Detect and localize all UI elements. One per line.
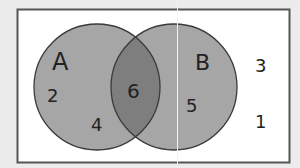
a-only-element: 2 (47, 85, 58, 106)
intersection-element: 6 (127, 79, 140, 103)
outside-element: 3 (255, 55, 266, 76)
outside-element: 1 (255, 111, 266, 132)
b-only-element: 5 (186, 95, 197, 116)
set-a-label: A (52, 48, 69, 76)
venn-diagram: A 2 4 6 B 5 3 1 (0, 0, 300, 168)
a-only-element: 4 (91, 114, 102, 135)
set-b-label: B (195, 50, 210, 75)
